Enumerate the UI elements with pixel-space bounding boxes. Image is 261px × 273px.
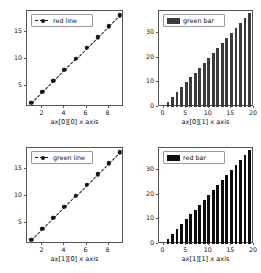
subplot-ax00: 510152468ax[0][0] x axisred line bbox=[0, 0, 130, 136]
xtick-label-ax10-3: 8 bbox=[98, 246, 118, 253]
bar-ax11-17 bbox=[239, 160, 242, 244]
bar-ax01-13 bbox=[221, 43, 224, 107]
data-point-ax10-8 bbox=[117, 150, 121, 154]
bar-ax11-9 bbox=[203, 200, 206, 244]
ytick-label-ax00-1: 10 bbox=[4, 54, 22, 61]
xtick-mark-ax01-4 bbox=[253, 106, 254, 108]
data-point-ax00-0 bbox=[29, 100, 33, 104]
subplot-ax01: 010203005101520ax[0][1] x axisgreen bar bbox=[131, 0, 261, 136]
xaxis-label-ax01: ax[0][1] x axis bbox=[158, 118, 253, 126]
bar-ax11-1 bbox=[167, 239, 170, 244]
xtick-label-ax11-3: 15 bbox=[220, 246, 240, 253]
ytick-mark-ax00-1 bbox=[24, 58, 26, 59]
subplot-ax11: 010203005101520ax[1][1] x axisred bar bbox=[131, 137, 261, 273]
bar-ax01-12 bbox=[216, 48, 219, 107]
data-point-ax00-7 bbox=[106, 24, 110, 28]
xtick-mark-ax01-0 bbox=[163, 106, 164, 108]
xtick-mark-ax01-3 bbox=[230, 106, 231, 108]
xtick-label-ax10-0: 2 bbox=[31, 246, 51, 253]
legend-ax01: green bar bbox=[163, 14, 225, 27]
legend-line-sample-ax00 bbox=[35, 17, 50, 24]
bar-ax11-12 bbox=[216, 185, 219, 244]
bar-ax11-10 bbox=[207, 195, 210, 244]
xtick-label-ax00-1: 4 bbox=[53, 109, 73, 116]
ytick-mark-ax01-0 bbox=[156, 106, 158, 107]
xtick-label-ax11-4: 20 bbox=[243, 246, 261, 253]
xtick-mark-ax10-0 bbox=[41, 243, 42, 245]
data-point-ax10-4 bbox=[73, 194, 77, 198]
legend-marker-ax00 bbox=[41, 19, 45, 23]
xtick-label-ax01-2: 10 bbox=[198, 109, 218, 116]
ytick-mark-ax01-1 bbox=[156, 81, 158, 82]
xtick-mark-ax01-2 bbox=[208, 106, 209, 108]
xtick-label-ax00-3: 8 bbox=[98, 109, 118, 116]
xtick-mark-ax11-1 bbox=[185, 243, 186, 245]
data-point-ax10-5 bbox=[84, 183, 88, 187]
xtick-label-ax01-0: 0 bbox=[153, 109, 173, 116]
bar-ax11-16 bbox=[235, 165, 238, 244]
bar-ax01-11 bbox=[212, 53, 215, 107]
legend-ax00: red line bbox=[31, 14, 93, 27]
ytick-mark-ax01-3 bbox=[156, 32, 158, 33]
ytick-mark-ax11-0 bbox=[156, 243, 158, 244]
legend-label-ax11: red bar bbox=[183, 154, 206, 162]
ytick-mark-ax01-2 bbox=[156, 57, 158, 58]
data-point-ax10-0 bbox=[29, 237, 33, 241]
xtick-label-ax01-4: 20 bbox=[243, 109, 261, 116]
data-point-ax00-1 bbox=[40, 90, 44, 94]
bar-ax01-18 bbox=[244, 18, 247, 107]
xtick-label-ax00-0: 2 bbox=[31, 109, 51, 116]
data-point-ax10-2 bbox=[51, 216, 55, 220]
xtick-mark-ax11-0 bbox=[163, 243, 164, 245]
data-point-ax10-1 bbox=[40, 227, 44, 231]
bar-ax01-7 bbox=[194, 73, 197, 107]
bar-ax01-14 bbox=[225, 38, 228, 107]
bar-ax11-7 bbox=[194, 210, 197, 244]
ytick-label-ax00-0: 5 bbox=[4, 81, 22, 88]
data-point-ax00-3 bbox=[62, 68, 66, 72]
xtick-label-ax10-2: 6 bbox=[76, 246, 96, 253]
xtick-mark-ax00-3 bbox=[108, 106, 109, 108]
ytick-label-ax01-1: 10 bbox=[136, 77, 154, 84]
bar-ax01-10 bbox=[207, 58, 210, 107]
bar-ax01-6 bbox=[189, 77, 192, 107]
xtick-label-ax00-2: 6 bbox=[76, 109, 96, 116]
xtick-label-ax11-0: 0 bbox=[153, 246, 173, 253]
xtick-mark-ax11-4 bbox=[253, 243, 254, 245]
bar-ax11-13 bbox=[221, 180, 224, 244]
xtick-mark-ax10-2 bbox=[86, 243, 87, 245]
data-point-ax00-6 bbox=[95, 35, 99, 39]
bar-ax01-19 bbox=[248, 13, 251, 107]
xtick-mark-ax11-3 bbox=[230, 243, 231, 245]
ytick-label-ax10-1: 10 bbox=[4, 191, 22, 198]
ytick-mark-ax10-0 bbox=[24, 222, 26, 223]
ytick-mark-ax11-3 bbox=[156, 169, 158, 170]
xtick-mark-ax01-1 bbox=[185, 106, 186, 108]
xtick-mark-ax00-0 bbox=[41, 106, 42, 108]
ytick-mark-ax10-1 bbox=[24, 195, 26, 196]
ytick-label-ax00-2: 15 bbox=[4, 27, 22, 34]
bar-ax01-2 bbox=[171, 97, 174, 107]
bar-ax01-17 bbox=[239, 23, 242, 107]
xaxis-label-ax10: ax[1][0] x axis bbox=[26, 255, 123, 263]
data-point-ax00-5 bbox=[84, 46, 88, 50]
legend-patch-ax11 bbox=[167, 155, 180, 161]
ytick-label-ax10-0: 5 bbox=[4, 218, 22, 225]
ytick-label-ax01-0: 0 bbox=[136, 102, 154, 109]
legend-patch-ax01 bbox=[167, 18, 180, 24]
xtick-mark-ax10-3 bbox=[108, 243, 109, 245]
bar-ax01-8 bbox=[198, 68, 201, 107]
xtick-label-ax01-3: 15 bbox=[220, 109, 240, 116]
bar-ax11-15 bbox=[230, 170, 233, 244]
data-point-ax00-8 bbox=[117, 13, 121, 17]
legend-label-ax10: green line bbox=[53, 154, 85, 162]
subplot-ax10: 510152468ax[1][0] x axisgreen line bbox=[0, 137, 130, 273]
data-point-ax10-6 bbox=[95, 172, 99, 176]
data-point-ax00-4 bbox=[73, 57, 77, 61]
xaxis-label-ax11: ax[1][1] x axis bbox=[158, 255, 253, 263]
data-point-ax00-2 bbox=[51, 79, 55, 83]
legend-marker-ax10 bbox=[41, 156, 45, 160]
ytick-label-ax01-3: 30 bbox=[136, 28, 154, 35]
ytick-mark-ax11-2 bbox=[156, 194, 158, 195]
xtick-label-ax01-1: 5 bbox=[175, 109, 195, 116]
